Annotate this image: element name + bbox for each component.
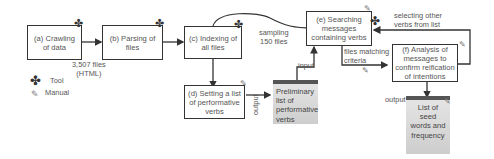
sampling-line2: 150 files: [259, 38, 289, 47]
edge-label-output-d: output: [252, 94, 261, 115]
doc-preliminary-line4: verbs: [276, 115, 315, 124]
edge-label-output-f: output: [385, 96, 406, 105]
edge-label-matching: files matching criteria: [344, 48, 389, 65]
doc-preliminary-line3: performative: [276, 105, 315, 114]
node-parsing-line1: (b) Parsing of: [110, 34, 156, 43]
doc-seed-line4: frequency: [409, 131, 447, 140]
tool-icon: ✤: [74, 17, 83, 30]
node-crawling-line2: of data: [34, 43, 75, 52]
doc-preliminary-line2: list of: [276, 96, 315, 105]
node-analysis-line2: messages to: [395, 54, 455, 63]
node-searching-line2: messages: [311, 24, 366, 33]
node-searching-line1: (e) Searching: [311, 15, 366, 24]
manual-pen-icon: ✎: [444, 97, 451, 106]
doc-seed-line1: List of: [409, 103, 447, 112]
legend-tool-icon: ✤: [30, 73, 41, 88]
document-preliminary-list: Preliminary list of performative verbs: [273, 80, 318, 124]
node-analysis-line1: (f) Analysis of: [395, 45, 455, 54]
node-crawling-line1: (a) Crawling: [34, 34, 75, 43]
files-count-line2: (HTML): [72, 70, 106, 79]
node-analysis-line3: confirm reification: [395, 63, 455, 72]
manual-pen-icon: ✎: [362, 66, 369, 75]
node-parsing-line2: files: [110, 43, 156, 52]
node-analysis-line4: of intentions: [395, 72, 455, 81]
node-setting-line2: of performative: [188, 98, 241, 107]
node-setting-line1: (d) Setting a list: [188, 89, 241, 98]
doc-seed-line2: seed: [409, 112, 447, 121]
doc-preliminary-line1: Preliminary: [276, 87, 315, 96]
legend-manual-label: Manual: [45, 89, 69, 98]
node-crawling: (a) Crawling of data: [27, 25, 82, 60]
legend-manual-icon: ✎: [31, 89, 39, 99]
node-analysis: (f) Analysis of messages to confirm reif…: [392, 44, 458, 82]
edge-label-input: input: [298, 62, 314, 71]
matching-line2: criteria: [344, 57, 389, 66]
manual-pen-icon: ✎: [459, 40, 466, 49]
manual-pen-icon: ✎: [364, 4, 371, 13]
node-setting-verbs: (d) Setting a list of performative verbs: [184, 85, 245, 119]
node-searching: (e) Searching messages containing verbs: [306, 11, 372, 46]
tool-icon: ✤: [155, 17, 164, 30]
node-searching-line3: containing verbs: [311, 33, 366, 42]
node-setting-line3: verbs: [188, 107, 241, 116]
tool-icon: ✤: [234, 18, 243, 31]
edge-label-sampling: sampling 150 files: [259, 29, 289, 46]
manual-pen-icon: ✎: [240, 79, 247, 88]
node-parsing: (b) Parsing of files: [102, 25, 163, 60]
legend-tool-label: Tool: [50, 77, 64, 86]
node-indexing-line1: (c) Indexing of: [189, 34, 237, 43]
tool-icon: ✤: [370, 14, 380, 28]
selecting-line2: verbs from list: [394, 21, 442, 30]
doc-seed-line3: words and: [409, 121, 447, 130]
edge-label-files-count: 3,507 files (HTML): [72, 61, 106, 78]
node-indexing-line2: all files: [189, 43, 237, 52]
edge-label-selecting: selecting other verbs from list: [394, 12, 442, 29]
